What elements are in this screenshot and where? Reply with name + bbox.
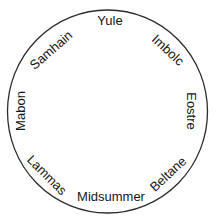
label-eostre: Eostre <box>185 92 198 130</box>
label-yule: Yule <box>97 14 122 27</box>
label-mabon: Mabon <box>14 91 27 131</box>
wheel-of-the-year-diagram: Yule Imbolc Eostre Beltane Midsummer Lam… <box>0 0 219 224</box>
wheel-circle-outline <box>8 10 208 213</box>
label-midsummer: Midsummer <box>77 190 145 203</box>
